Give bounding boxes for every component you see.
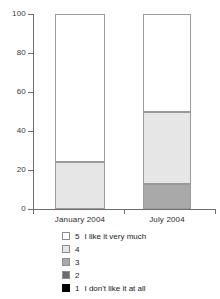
y-axis-label-80-wrap: 80 (0, 49, 26, 57)
legend-key-3: 3 (75, 258, 79, 267)
y-axis-label-100-wrap: 100 (0, 10, 26, 18)
y-axis-label-20-wrap: 20 (0, 166, 26, 174)
legend-swatch-2-icon (62, 271, 70, 279)
y-axis-label-20: 20 (2, 166, 26, 174)
y-tick-80 (28, 53, 33, 54)
legend-key-1: 1 (75, 284, 79, 293)
y-axis-label-60-wrap: 60 (0, 88, 26, 96)
plot-area: 100 80 60 40 20 0 (0, 0, 220, 222)
x-category-label-january-2004: January 2004 (40, 215, 120, 224)
y-tick-100 (28, 14, 33, 15)
legend-description-1: I don't like it at all (84, 284, 145, 293)
legend-description-5: I like it very much (84, 232, 146, 241)
legend: 5 I like it very much 4 3 2 1 I don't li… (0, 228, 220, 299)
bar-segment-july-series-4 (143, 112, 191, 184)
legend-key-2: 2 (75, 271, 79, 280)
bar-january-2004 (55, 14, 105, 209)
x-tick-middle (124, 210, 125, 214)
bar-segment-january-series-4 (55, 162, 105, 209)
legend-item-5[interactable]: 5 I like it very much (62, 230, 146, 242)
stacked-bar-chart-figure: 100 80 60 40 20 0 (0, 0, 220, 299)
legend-swatch-3-icon (62, 258, 70, 266)
x-category-label-july-2004: July 2004 (129, 215, 205, 224)
legend-swatch-1-icon (62, 284, 70, 292)
y-axis-label-100: 100 (2, 10, 26, 18)
x-tick-end (215, 210, 216, 214)
y-tick-60 (28, 92, 33, 93)
bar-july-2004 (143, 14, 191, 209)
legend-item-1[interactable]: 1 I don't like it at all (62, 282, 146, 294)
y-axis-line (33, 14, 34, 210)
y-axis-label-40-wrap: 40 (0, 127, 26, 135)
legend-item-2[interactable]: 2 (62, 269, 84, 281)
legend-item-3[interactable]: 3 (62, 256, 84, 268)
y-tick-20 (28, 170, 33, 171)
y-axis-label-60: 60 (2, 88, 26, 96)
y-axis-label-80: 80 (2, 49, 26, 57)
bar-segment-january-series-5 (55, 14, 105, 162)
bar-segment-july-series-5 (143, 14, 191, 112)
legend-key-5: 5 (75, 232, 79, 241)
legend-item-4[interactable]: 4 (62, 243, 84, 255)
x-tick-start (33, 210, 34, 214)
legend-swatch-4-icon (62, 245, 70, 253)
legend-key-4: 4 (75, 245, 79, 254)
bar-segment-july-series-3 (143, 184, 191, 209)
y-tick-40 (28, 131, 33, 132)
y-axis-label-0-wrap: 0 (0, 205, 26, 213)
y-axis-label-40: 40 (2, 127, 26, 135)
y-axis-label-0: 0 (2, 205, 26, 213)
legend-swatch-5-icon (62, 232, 70, 240)
